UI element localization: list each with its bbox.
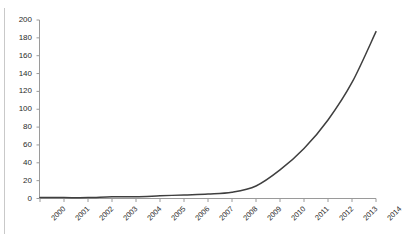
y-tick-label: 160 (8, 52, 32, 60)
y-tick-label: 200 (8, 16, 32, 24)
y-tick-label: 180 (8, 34, 32, 42)
y-tick-label: 80 (8, 123, 32, 131)
data-series-line (40, 32, 376, 198)
x-tick-label: 2014 (386, 205, 403, 222)
y-tick-label: 0 (8, 195, 32, 203)
y-tick-label: 40 (8, 159, 32, 167)
y-tick-label: 100 (8, 105, 32, 113)
y-tick-label: 140 (8, 70, 32, 78)
y-tick-label: 120 (8, 87, 32, 95)
y-tick-label: 20 (8, 177, 32, 185)
x-axis-ticks (40, 199, 376, 203)
y-tick-label: 60 (8, 141, 32, 149)
